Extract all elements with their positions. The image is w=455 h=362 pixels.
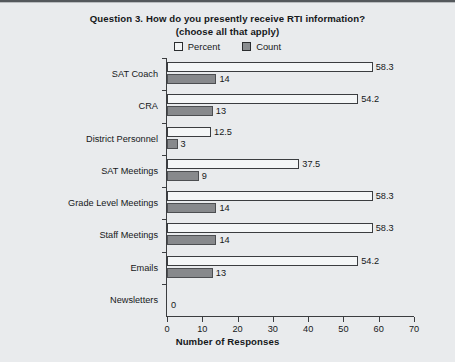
legend-swatch-percent-icon	[174, 42, 183, 51]
y-axis-tick	[162, 284, 167, 285]
y-axis-tick	[162, 252, 167, 253]
bar-value-label: 37.5	[302, 159, 320, 169]
y-axis-tick-label: Newsletters	[110, 295, 158, 305]
bar-count: 3	[167, 139, 178, 149]
x-axis-tick-label: 50	[338, 324, 348, 334]
chart-row: SAT Coach58.314	[167, 58, 414, 90]
chart-row: District Personnel12.53	[167, 123, 414, 155]
bar-count: 13	[167, 268, 213, 278]
top-divider-shadow	[0, 2, 455, 3]
bar-value-label: 14	[219, 235, 229, 245]
y-axis-tick	[162, 155, 167, 156]
chart-row: Emails54.213	[167, 252, 414, 284]
bar-count: 14	[167, 203, 216, 213]
y-axis-tick-label: Staff Meetings	[99, 230, 158, 240]
y-axis-tick-label: CRA	[139, 101, 158, 111]
legend-label-percent: Percent	[188, 41, 220, 52]
bar-value-label: 0	[171, 300, 176, 310]
y-axis-tick	[162, 90, 167, 91]
bar-value-label: 14	[219, 203, 229, 213]
chart-page: Question 3. How do you presently receive…	[0, 0, 455, 362]
x-axis-tick	[343, 317, 344, 322]
bar-value-label: 54.2	[361, 94, 379, 104]
bar-value-label: 58.3	[376, 191, 394, 201]
bar-percent: 54.2	[167, 256, 358, 266]
chart-title-line-1: Question 3. How do you presently receive…	[0, 12, 455, 25]
chart-row: Newsletters0	[167, 284, 414, 316]
bar-value-label: 58.3	[376, 223, 394, 233]
chart-title: Question 3. How do you presently receive…	[0, 12, 455, 38]
y-axis-tick-label: Grade Level Meetings	[68, 198, 158, 208]
y-axis-tick-label: Emails	[130, 263, 158, 273]
plot-area: SAT Coach58.314CRA54.213District Personn…	[167, 58, 414, 316]
bar-value-label: 54.2	[361, 256, 379, 266]
legend-label-count: Count	[256, 41, 281, 52]
bar-percent: 58.3	[167, 62, 373, 72]
x-axis-tick	[379, 317, 380, 322]
y-axis-tick	[162, 58, 167, 59]
chart-row: Grade Level Meetings58.314	[167, 187, 414, 219]
bar-count: 13	[167, 106, 213, 116]
x-axis-tick	[414, 317, 415, 322]
chart-row: SAT Meetings37.59	[167, 155, 414, 187]
chart-row: CRA54.213	[167, 90, 414, 122]
bar-count: 9	[167, 171, 199, 181]
legend-swatch-count-icon	[242, 42, 251, 51]
chart-title-line-2: (choose all that apply)	[0, 25, 455, 38]
legend-item-percent: Percent	[174, 41, 220, 52]
x-axis-tick	[167, 317, 168, 322]
x-axis-tick-label: 30	[268, 324, 278, 334]
x-axis-tick-label: 70	[409, 324, 419, 334]
x-axis-tick	[238, 317, 239, 322]
bar-percent: 37.5	[167, 159, 299, 169]
x-axis-tick-label: 10	[197, 324, 207, 334]
y-axis-tick	[162, 219, 167, 220]
bar-value-label: 14	[219, 74, 229, 84]
x-axis-tick	[273, 317, 274, 322]
bar-value-label: 3	[181, 139, 186, 149]
y-axis-tick	[162, 123, 167, 124]
bar-percent: 58.3	[167, 223, 373, 233]
x-axis-tick	[308, 317, 309, 322]
chart-row: Staff Meetings58.314	[167, 219, 414, 251]
x-axis-tick	[202, 317, 203, 322]
bar-value-label: 9	[202, 171, 207, 181]
legend-item-count: Count	[242, 41, 281, 52]
x-axis-tick-label: 20	[232, 324, 242, 334]
bar-percent: 58.3	[167, 191, 373, 201]
bar-value-label: 13	[216, 106, 226, 116]
x-axis-tick-label: 60	[374, 324, 384, 334]
chart-legend: Percent Count	[0, 41, 455, 52]
y-axis-tick-label: District Personnel	[86, 134, 158, 144]
bar-value-label: 13	[216, 268, 226, 278]
bar-count: 14	[167, 235, 216, 245]
bar-percent: 12.5	[167, 127, 211, 137]
y-axis-tick-label: SAT Meetings	[101, 166, 158, 176]
x-axis-tick-label: 0	[164, 324, 169, 334]
bar-value-label: 12.5	[214, 127, 232, 137]
bar-value-label: 58.3	[376, 62, 394, 72]
bar-percent: 54.2	[167, 94, 358, 104]
y-axis-tick	[162, 187, 167, 188]
y-axis-tick-label: SAT Coach	[112, 69, 158, 79]
x-axis-title: Number of Responses	[0, 336, 455, 347]
bar-count: 14	[167, 74, 216, 84]
x-axis-tick-label: 40	[303, 324, 313, 334]
